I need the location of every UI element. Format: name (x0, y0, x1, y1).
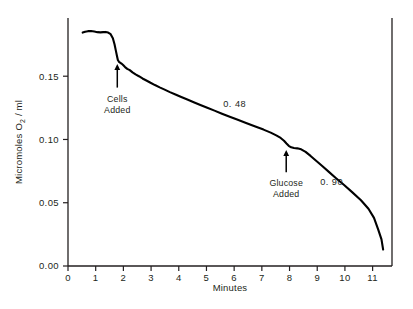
annotation-label-line2: Added (104, 105, 130, 115)
oxygen-trace-line (83, 31, 383, 250)
y-tick-label: 0.10 (39, 134, 59, 145)
y-tick-label: 0.05 (39, 197, 59, 208)
annotation-label-line1: Glucose (269, 178, 303, 188)
x-tick-label: 10 (339, 272, 350, 283)
x-tick-label: 0 (65, 272, 71, 283)
y-axis-title-group: Micromoles O2 / ml (13, 100, 26, 184)
chart-annotations: CellsAddedGlucoseAdded (104, 64, 303, 199)
annotation-cells-added: CellsAdded (104, 64, 130, 114)
annotation-label-line1: Cells (107, 94, 128, 104)
slope-label-slope-lower: 0. 90 (320, 177, 343, 187)
x-tick-label: 11 (367, 272, 378, 283)
y-tick-label: 0.00 (39, 260, 59, 271)
data-series-group (83, 31, 383, 250)
x-tick-label: 7 (259, 272, 265, 283)
x-axis-title: Minutes (213, 282, 248, 293)
chart-canvas: 0.000.050.100.15 01234567891011 CellsAdd… (0, 0, 413, 309)
arrow-head-icon (114, 64, 120, 70)
y-axis-ticks (63, 76, 68, 266)
y-axis-title-prefix: Micromoles O (13, 123, 24, 184)
x-tick-label: 9 (314, 272, 320, 283)
x-tick-label: 4 (176, 272, 182, 283)
annotation-glucose-added: GlucoseAdded (269, 150, 303, 199)
y-tick-label: 0.15 (39, 71, 59, 82)
x-tick-label: 5 (204, 272, 210, 283)
oxygen-consumption-chart: 0.000.050.100.15 01234567891011 CellsAdd… (0, 0, 413, 309)
x-axis-ticks (68, 266, 373, 271)
x-tick-label: 1 (93, 272, 99, 283)
slope-rate-labels: 0. 480. 90 (223, 99, 343, 187)
y-axis-tick-labels: 0.000.050.100.15 (39, 71, 59, 272)
x-tick-label: 3 (148, 272, 154, 283)
slope-label-slope-upper: 0. 48 (223, 99, 246, 109)
y-axis-title: Micromoles O2 / ml (13, 100, 26, 184)
annotation-label-line2: Added (273, 189, 299, 199)
arrow-head-icon (283, 150, 289, 156)
y-axis-title-suffix: / ml (13, 100, 24, 119)
x-tick-label: 2 (121, 272, 127, 283)
x-tick-label: 8 (287, 272, 293, 283)
